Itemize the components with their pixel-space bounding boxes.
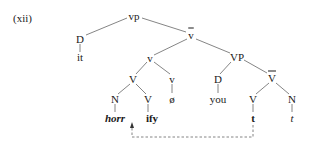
leaf-it: it [77, 52, 83, 63]
node-vp: vp [129, 11, 140, 22]
arrowhead-icon [130, 122, 134, 128]
leaf-null: ø [169, 94, 175, 105]
leaf-t-trace: t [290, 113, 293, 124]
movement-arrow [132, 125, 253, 137]
example-number: (xii) [13, 12, 32, 24]
node-N-horr: N [111, 94, 119, 105]
node-N-t: N [288, 94, 296, 105]
node-V: V [129, 74, 137, 85]
node-V-t: V [249, 94, 257, 105]
node-V-ify: V [144, 94, 152, 105]
node-v-null: v [169, 74, 175, 85]
node-v-bar: v [188, 30, 194, 41]
node-D: D [76, 34, 84, 45]
node-v: v [147, 53, 153, 64]
node-V-bar: V [268, 73, 276, 84]
syntax-tree-diagram: (xii) vp D it v v VP V v D V N V ø you V… [0, 0, 309, 144]
leaf-t-bold: t [251, 113, 255, 124]
leaf-horr: horr [105, 113, 125, 124]
leaf-ify: ify [146, 113, 158, 124]
node-D-you: D [214, 74, 222, 85]
leaf-you: you [210, 94, 227, 105]
node-VP: VP [230, 52, 244, 63]
